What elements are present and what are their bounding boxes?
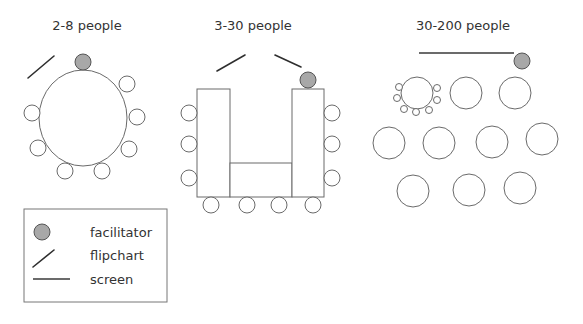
chair (434, 97, 441, 104)
legend: facilitator flipchart screen (24, 209, 167, 302)
chair (396, 84, 403, 91)
layout-small-group: 2-8 people (24, 18, 145, 179)
chair (401, 106, 408, 113)
facilitator-icon (514, 53, 530, 69)
layout-title: 2-8 people (52, 18, 121, 33)
chair (324, 170, 340, 186)
round-table (450, 77, 482, 109)
chair (239, 197, 255, 213)
layout-title: 3-30 people (214, 18, 292, 33)
flipchart-icon (275, 55, 301, 67)
table-bottom (230, 163, 292, 197)
layout-u-shape: 3-30 people (181, 18, 340, 213)
legend-label-flipchart: flipchart (90, 248, 144, 263)
round-table (373, 127, 405, 159)
round-table (423, 127, 455, 159)
chair (324, 136, 340, 152)
chair (394, 95, 401, 102)
flipchart-icon (217, 55, 245, 71)
layout-title: 30-200 people (416, 18, 510, 33)
round-table (526, 123, 558, 155)
round-table (504, 172, 536, 204)
round-table (39, 70, 127, 166)
chair (426, 107, 433, 114)
round-table (397, 175, 429, 207)
chair (30, 140, 46, 156)
chair (57, 163, 73, 179)
round-table (401, 77, 433, 109)
table-left (197, 89, 230, 197)
chair (181, 170, 197, 186)
chair (121, 141, 137, 157)
chair (305, 197, 321, 213)
chair (434, 85, 441, 92)
legend-label-screen: screen (90, 272, 133, 287)
round-table (476, 126, 508, 158)
chair (324, 105, 340, 121)
layout-large-group: 30-200 people (373, 18, 558, 207)
facilitator-icon (300, 72, 316, 88)
chair (119, 76, 135, 92)
facilitator-icon (75, 54, 91, 70)
legend-label-facilitator: facilitator (90, 225, 153, 240)
chair (94, 163, 110, 179)
chair (181, 105, 197, 121)
round-table (453, 174, 485, 206)
chair (129, 109, 145, 125)
chair (413, 109, 420, 116)
chair (181, 136, 197, 152)
chair (24, 105, 40, 121)
chair (271, 197, 287, 213)
flipchart-icon (28, 56, 54, 78)
facilitator-icon (34, 224, 50, 240)
chair (203, 197, 219, 213)
round-table (499, 77, 531, 109)
table-right (292, 89, 324, 197)
seating-diagram: 2-8 people 3-30 people 30-200 people (0, 0, 583, 324)
